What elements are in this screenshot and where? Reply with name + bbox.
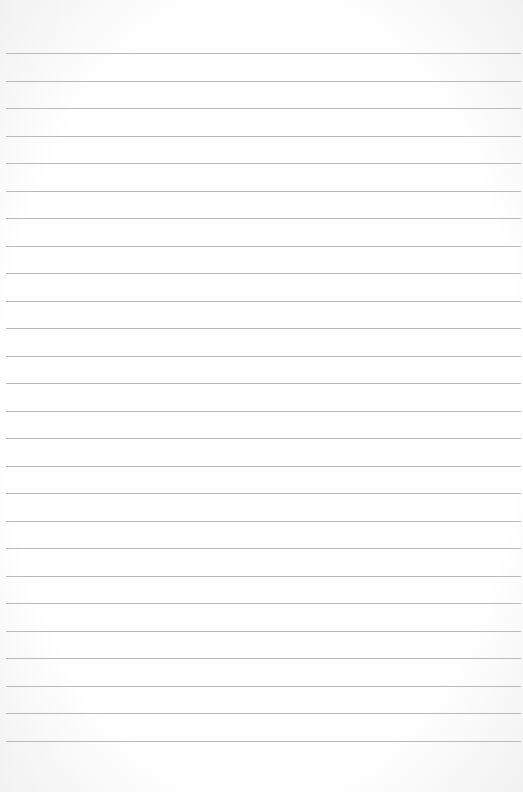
ruled-line xyxy=(6,273,521,274)
ruled-line xyxy=(6,521,521,522)
ruled-line xyxy=(6,356,521,357)
ruled-line xyxy=(6,81,521,82)
ruled-line xyxy=(6,411,521,412)
ruled-line xyxy=(6,576,521,577)
ruled-line xyxy=(6,493,521,494)
ruled-line xyxy=(6,658,521,659)
ruled-line xyxy=(6,603,521,604)
ruled-line xyxy=(6,218,521,219)
ruled-line xyxy=(6,466,521,467)
ruled-line xyxy=(6,548,521,549)
ruled-line xyxy=(6,246,521,247)
ruled-line xyxy=(6,631,521,632)
ruled-line xyxy=(6,163,521,164)
ruled-line xyxy=(6,741,521,742)
ruled-line xyxy=(6,686,521,687)
ruled-line xyxy=(6,191,521,192)
lined-paper xyxy=(0,0,523,792)
ruled-line xyxy=(6,438,521,439)
ruled-line xyxy=(6,713,521,714)
ruled-line xyxy=(6,383,521,384)
ruled-line xyxy=(6,136,521,137)
ruled-line xyxy=(6,53,521,54)
ruled-line xyxy=(6,108,521,109)
ruled-line xyxy=(6,328,521,329)
ruled-line xyxy=(6,301,521,302)
